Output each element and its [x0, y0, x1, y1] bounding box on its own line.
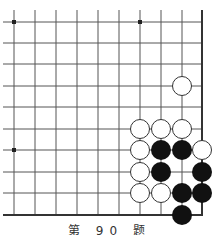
black-stone	[192, 162, 212, 182]
go-board	[0, 0, 219, 225]
star-point	[138, 20, 142, 24]
white-stone	[131, 141, 150, 160]
grid-lines	[3, 10, 203, 216]
white-stone	[131, 163, 150, 182]
problem-caption: 第 90 题	[0, 224, 219, 235]
black-stone	[151, 162, 171, 182]
star-point	[12, 20, 16, 24]
stones	[131, 77, 213, 226]
white-stone	[131, 184, 150, 203]
go-board-grid	[0, 0, 219, 225]
white-stone	[173, 120, 192, 139]
black-stone	[192, 183, 212, 203]
black-stone	[172, 183, 192, 203]
star-point	[12, 148, 16, 152]
white-stone	[131, 120, 150, 139]
black-stone	[172, 140, 192, 160]
white-stone	[152, 184, 171, 203]
white-stone	[152, 120, 171, 139]
black-stone	[172, 205, 192, 225]
white-stone	[173, 77, 192, 96]
white-stone	[193, 141, 212, 160]
black-stone	[151, 140, 171, 160]
